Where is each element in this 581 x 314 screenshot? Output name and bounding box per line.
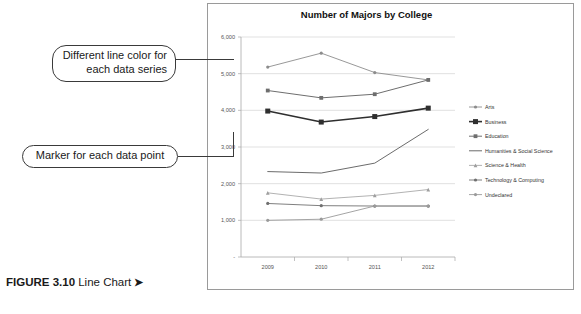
- x-axis-tick-label: 2010: [315, 264, 327, 270]
- series-line-6[interactable]: [268, 206, 429, 220]
- data-point-marker[interactable]: [320, 52, 323, 55]
- y-axis-tick-label: 1,000: [221, 217, 235, 223]
- series-line-2[interactable]: [268, 80, 429, 98]
- legend-item-0[interactable]: Arts: [469, 104, 495, 110]
- chart-panel[interactable]: Number of Majors by College-1,0002,0003,…: [207, 3, 574, 290]
- legend-label: Technology & Computing: [485, 177, 544, 183]
- legend-item-1[interactable]: Business: [469, 119, 507, 125]
- data-point-marker[interactable]: [266, 202, 269, 205]
- data-point-marker[interactable]: [427, 204, 430, 207]
- y-axis-tick-label: -: [233, 254, 235, 260]
- legend-item-2[interactable]: Education: [469, 133, 509, 139]
- leader-line-marker-vertical: [233, 132, 234, 157]
- data-point-marker[interactable]: [372, 114, 377, 119]
- figure-arrow-icon: ➤: [134, 276, 143, 288]
- legend-label: Business: [485, 119, 507, 125]
- data-point-marker: [474, 178, 477, 181]
- figure-number: FIGURE 3.10: [6, 276, 75, 288]
- y-axis-tick-label: 4,000: [221, 107, 235, 113]
- leader-line-color: [176, 59, 234, 60]
- chart-title: Number of Majors by College: [301, 9, 432, 20]
- legend-item-3[interactable]: Humanities & Social Science: [469, 148, 553, 154]
- data-point-marker: [474, 134, 478, 138]
- data-point-marker[interactable]: [319, 96, 323, 100]
- y-axis-tick-label: 5,000: [221, 71, 235, 77]
- legend-label: Education: [485, 133, 509, 139]
- data-point-marker: [473, 119, 478, 124]
- x-axis-tick-label: 2009: [262, 264, 274, 270]
- data-point-marker[interactable]: [426, 78, 430, 82]
- data-point-marker[interactable]: [373, 71, 376, 74]
- line-chart[interactable]: Number of Majors by College-1,0002,0003,…: [208, 4, 573, 289]
- legend-label: Science & Health: [485, 162, 526, 168]
- legend-label: Humanities & Social Science: [485, 148, 553, 154]
- series-line-4[interactable]: [268, 190, 429, 200]
- data-point-marker[interactable]: [373, 92, 377, 96]
- data-point-marker[interactable]: [266, 219, 269, 222]
- data-point-marker[interactable]: [373, 204, 376, 207]
- legend-item-4[interactable]: Science & Health: [469, 162, 526, 168]
- legend-item-6[interactable]: Undeclared: [469, 192, 512, 198]
- y-axis-tick-label: 6,000: [221, 34, 235, 40]
- data-point-marker[interactable]: [266, 89, 270, 93]
- x-axis-tick-label: 2012: [422, 264, 434, 270]
- data-point-marker[interactable]: [266, 65, 269, 68]
- annotation-marker: Marker for each data point: [22, 145, 178, 168]
- series-line-0[interactable]: [268, 53, 429, 80]
- leader-line-marker: [178, 156, 234, 157]
- data-point-marker[interactable]: [320, 204, 323, 207]
- data-point-marker[interactable]: [265, 109, 270, 114]
- data-point-marker[interactable]: [319, 120, 324, 125]
- figure-title: Line Chart: [75, 276, 134, 288]
- annotation-line-color: Different line color for each data serie…: [52, 45, 176, 82]
- data-point-marker: [474, 105, 477, 108]
- x-axis-tick-label: 2011: [369, 264, 381, 270]
- data-point-marker: [474, 193, 477, 196]
- data-point-marker[interactable]: [426, 106, 431, 111]
- series-line-3[interactable]: [268, 129, 429, 173]
- legend-item-5[interactable]: Technology & Computing: [469, 177, 544, 183]
- y-axis-tick-label: 2,000: [221, 181, 235, 187]
- legend-label: Undeclared: [485, 192, 512, 198]
- figure-caption: FIGURE 3.10 Line Chart ➤: [6, 276, 143, 289]
- legend-label: Arts: [485, 104, 495, 110]
- data-point-marker[interactable]: [320, 218, 323, 221]
